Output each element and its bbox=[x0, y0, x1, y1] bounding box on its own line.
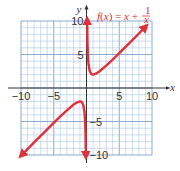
function-label-lhs: f(x) = x + bbox=[97, 10, 138, 23]
x-tick-label: −10 bbox=[12, 90, 31, 102]
y-tick-label: 10 bbox=[71, 15, 83, 27]
x-tick-label: 5 bbox=[116, 90, 122, 102]
function-label-denominator: x bbox=[143, 13, 149, 25]
function-graph: −10−5510105−5−10 x y f(x) = x + 1 x bbox=[0, 0, 180, 171]
x-axis-label: x bbox=[169, 81, 175, 93]
y-axis-label: y bbox=[76, 3, 82, 15]
y-tick-label: −5 bbox=[90, 116, 103, 128]
y-tick-label: −10 bbox=[90, 149, 109, 161]
x-tick-label: 10 bbox=[146, 90, 158, 102]
x-tick-label: −5 bbox=[47, 90, 60, 102]
y-tick-label: 5 bbox=[77, 49, 83, 61]
